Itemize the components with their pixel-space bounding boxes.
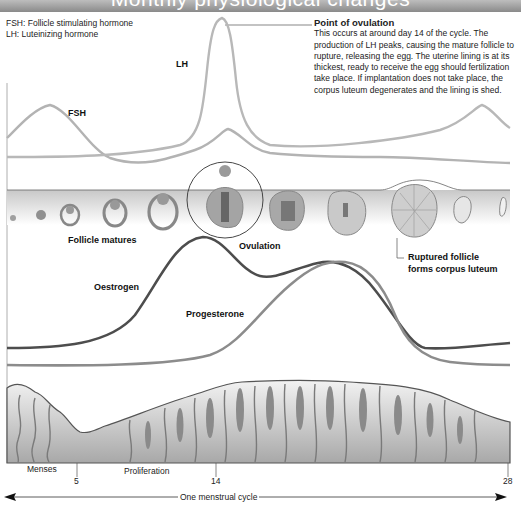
day-5-label: 5	[74, 476, 79, 486]
ruptured-follicle-line1: Ruptured follicle	[408, 252, 498, 264]
oestrogen-label: Oestrogen	[94, 282, 139, 292]
menses-label: Menses	[27, 464, 57, 474]
ovulation-label: Ovulation	[239, 241, 281, 251]
released-egg	[219, 165, 231, 177]
progesterone-curve	[7, 262, 510, 366]
lh-curve	[7, 18, 510, 157]
lh-label: LH	[176, 59, 188, 69]
day-28-label: 28	[503, 476, 512, 486]
uterine-lining	[7, 381, 510, 464]
day-14-label: 14	[211, 476, 220, 486]
cycle-label: One menstrual cycle	[178, 492, 259, 502]
ruptured-follicle-label: Ruptured follicle forms corpus luteum	[408, 252, 498, 275]
ruptured-follicle-line2: forms corpus luteum	[408, 264, 498, 276]
follicle-stage-1	[10, 215, 16, 221]
corpus-luteum-leader-line	[397, 238, 404, 258]
fsh-label: FSH	[68, 108, 86, 118]
progesterone-label: Progesterone	[186, 309, 244, 319]
follicle-matures-label: Follicle matures	[68, 235, 137, 245]
follicle-stage-2	[36, 210, 46, 220]
proliferation-label: Proliferation	[124, 466, 169, 476]
